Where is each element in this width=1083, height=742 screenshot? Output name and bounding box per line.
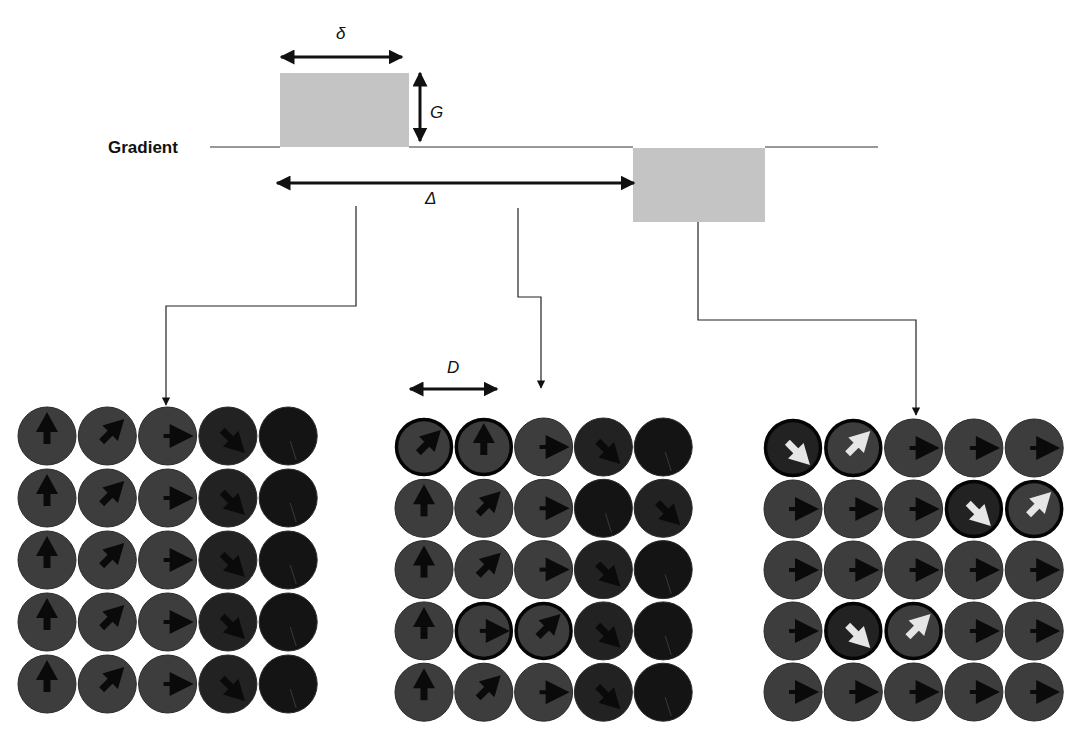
spin xyxy=(139,469,197,527)
spin xyxy=(885,419,943,477)
spin xyxy=(766,421,821,476)
spin xyxy=(199,469,257,527)
spin xyxy=(515,541,573,599)
connector-to-left-panel xyxy=(166,206,356,405)
spin xyxy=(18,469,76,527)
spin xyxy=(259,469,317,527)
spin xyxy=(886,604,941,659)
spin xyxy=(574,541,632,599)
spin xyxy=(139,593,197,651)
spin xyxy=(455,479,513,537)
spin-panels xyxy=(18,407,1063,721)
spin xyxy=(18,593,76,651)
spin xyxy=(78,593,136,651)
spin xyxy=(455,541,513,599)
spin xyxy=(199,655,257,713)
spin xyxy=(516,603,571,658)
spin xyxy=(515,418,573,476)
spin xyxy=(574,418,632,476)
delta-small-label: δ xyxy=(336,25,345,42)
spin xyxy=(395,602,453,660)
spin xyxy=(18,531,76,589)
spin xyxy=(885,480,943,538)
connector-to-right-panel xyxy=(698,222,916,415)
connector-to-middle-panel xyxy=(518,208,541,388)
spin xyxy=(634,479,692,537)
spin xyxy=(945,602,1003,660)
dimension-arrows xyxy=(277,57,634,389)
spin xyxy=(885,663,943,721)
spin xyxy=(139,655,197,713)
spin xyxy=(259,593,317,651)
spin xyxy=(824,480,882,538)
spin xyxy=(764,541,822,599)
spin xyxy=(78,407,136,465)
spin xyxy=(456,420,511,475)
spin xyxy=(139,407,197,465)
spin xyxy=(78,531,136,589)
panel-during-diffusion xyxy=(395,418,692,721)
spin xyxy=(824,541,882,599)
spin xyxy=(574,663,632,721)
gradient-label: Gradient xyxy=(108,139,178,156)
G-label: G xyxy=(430,104,443,121)
spin xyxy=(1005,419,1063,477)
spin xyxy=(885,541,943,599)
spin xyxy=(826,604,881,659)
spin xyxy=(824,663,882,721)
spin xyxy=(139,531,197,589)
spin xyxy=(634,602,692,660)
spin xyxy=(1007,482,1062,537)
spin xyxy=(18,407,76,465)
spin xyxy=(395,663,453,721)
spin xyxy=(199,531,257,589)
spin xyxy=(1005,663,1063,721)
spin xyxy=(945,541,1003,599)
spin xyxy=(634,541,692,599)
spin xyxy=(764,602,822,660)
panel-after-first-pulse xyxy=(18,407,317,713)
spin xyxy=(515,663,573,721)
spin xyxy=(574,602,632,660)
spin xyxy=(395,479,453,537)
spin xyxy=(764,480,822,538)
connectors xyxy=(166,206,916,415)
spin xyxy=(574,479,632,537)
Delta-big-label: Δ xyxy=(425,190,436,207)
D-label: D xyxy=(447,359,459,376)
spin xyxy=(764,663,822,721)
spin xyxy=(826,421,881,476)
spin xyxy=(634,418,692,476)
spin xyxy=(259,407,317,465)
spin xyxy=(199,593,257,651)
spin xyxy=(946,482,1001,537)
spin xyxy=(1005,602,1063,660)
spin xyxy=(945,663,1003,721)
spin xyxy=(78,469,136,527)
panel-after-second-pulse xyxy=(764,419,1063,721)
spin xyxy=(455,663,513,721)
spin xyxy=(18,655,76,713)
spin xyxy=(259,655,317,713)
spin xyxy=(78,655,136,713)
diffusion-diagram xyxy=(0,0,1083,742)
spin xyxy=(397,420,452,475)
spin xyxy=(1005,541,1063,599)
spin xyxy=(945,419,1003,477)
spin xyxy=(515,479,573,537)
spin xyxy=(199,407,257,465)
spin xyxy=(634,663,692,721)
spin xyxy=(259,531,317,589)
spin xyxy=(456,603,511,658)
spin xyxy=(395,541,453,599)
